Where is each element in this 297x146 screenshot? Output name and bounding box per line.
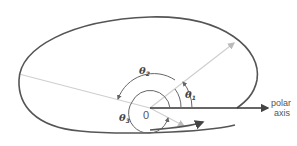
spiral-start	[150, 122, 203, 130]
theta2-label: θ2	[139, 65, 150, 77]
origin-label: 0	[143, 109, 149, 121]
theta1-label: θ1	[185, 89, 196, 101]
polar-axis-label-2: axis	[274, 108, 291, 118]
arc-mid	[175, 89, 181, 108]
ray-theta2	[19, 74, 150, 108]
polar-spiral-diagram: θ1 θ2 θ3 0 polar axis	[0, 0, 297, 146]
diagram-svg: θ1 θ2 θ3 0 polar axis	[0, 0, 297, 146]
polar-axis-label-1: polar	[271, 98, 291, 108]
ray-theta3	[150, 108, 184, 126]
